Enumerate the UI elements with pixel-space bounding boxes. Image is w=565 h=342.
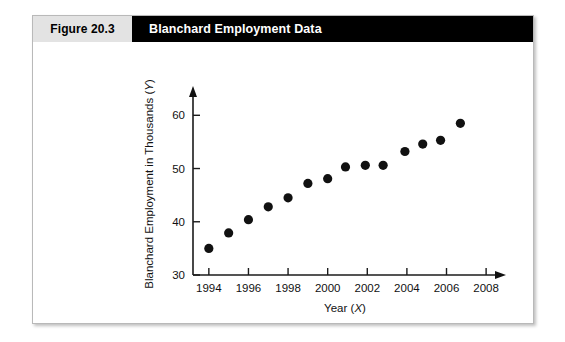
y-tick-label: 40 [172,216,185,228]
chart-svg: 30405060 1994199619982000200220042006200… [33,42,533,325]
data-point [204,244,213,253]
data-point [436,136,445,145]
y-tick-label: 50 [172,163,185,175]
data-point [264,202,273,211]
x-tick-label: 2004 [394,282,420,294]
y-axis-ticks [193,115,200,275]
data-point [418,139,427,148]
x-tick-label: 1996 [236,282,262,294]
y-axis-tick-labels: 30405060 [172,109,185,281]
x-tick-label: 1994 [196,282,222,294]
figure-number-label: Figure 20.3 [33,16,132,42]
axes-group [189,86,506,279]
data-points-group [204,119,465,253]
x-tick-label: 1998 [275,282,301,294]
data-point [361,161,370,170]
y-axis-title: Blanchard Employment in Thousands (Y) [143,79,155,289]
data-point [341,162,350,171]
scatter-plot: 30405060 1994199619982000200220042006200… [33,42,533,325]
x-tick-label: 2008 [473,282,499,294]
data-point [224,228,233,237]
y-axis-arrow-icon [189,86,197,97]
figure-header: Figure 20.3 Blanchard Employment Data [33,16,533,42]
figure-container: Figure 20.3 Blanchard Employment Data 30… [32,15,534,324]
y-tick-label: 30 [172,269,185,281]
x-tick-label: 2002 [354,282,380,294]
data-point [379,161,388,170]
y-tick-label: 60 [172,109,185,121]
data-point [303,179,312,188]
x-tick-label: 2000 [315,282,341,294]
figure-title: Blanchard Employment Data [132,16,533,42]
data-point [283,193,292,202]
x-axis-arrow-icon [495,271,506,279]
x-axis-ticks [209,268,486,275]
data-point [323,174,332,183]
x-axis-tick-labels: 19941996199820002002200420062008 [196,282,499,294]
data-point [244,215,253,224]
x-axis-title: Year (X) [324,302,366,314]
data-point [400,147,409,156]
data-point [456,119,465,128]
x-tick-label: 2006 [434,282,460,294]
